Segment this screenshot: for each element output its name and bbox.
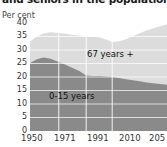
x-axis-tick-labels: 1950 1971 1991 2010 205 — [0, 133, 167, 147]
series-label-67-plus: 67 years + — [87, 49, 134, 59]
y-tick-20: 20 — [17, 73, 27, 81]
y-axis-tick-labels: 40 35 30 25 20 15 10 5 0 — [0, 0, 27, 147]
plot-area — [30, 23, 167, 131]
x-tick-1950: 1950 — [21, 133, 43, 143]
y-tick-30: 30 — [17, 46, 27, 54]
x-tick-2010: 2010 — [119, 133, 141, 143]
x-tick-1991: 1991 — [87, 133, 109, 143]
y-tick-25: 25 — [17, 59, 27, 67]
y-tick-15: 15 — [17, 86, 27, 94]
chart-container: and seniors in the population Per cent 4… — [0, 0, 167, 147]
x-tick-1971: 1971 — [54, 133, 76, 143]
area-chart-svg — [30, 23, 167, 131]
x-tick-2050: 205 — [149, 133, 165, 143]
y-tick-5: 5 — [22, 113, 27, 121]
y-tick-40: 40 — [17, 19, 27, 27]
y-tick-35: 35 — [17, 32, 27, 40]
series-label-0-15: 0-15 years — [49, 91, 94, 101]
stacked-areas — [30, 24, 167, 131]
y-tick-10: 10 — [17, 100, 27, 108]
